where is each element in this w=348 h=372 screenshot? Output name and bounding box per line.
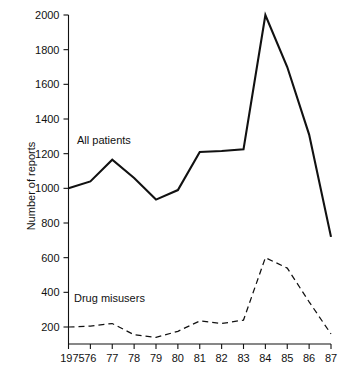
x-tick-label: 86 — [303, 352, 315, 364]
x-tick-label: 87 — [325, 352, 337, 364]
y-tick-label: 800 — [41, 217, 59, 229]
series-line-all-patients — [69, 15, 332, 237]
chart-plot-area: 200400600800100012001400160018002000 197… — [0, 0, 348, 372]
x-tick-label: 79 — [150, 352, 162, 364]
y-tick-label: 1600 — [35, 78, 59, 90]
x-tick-label: 78 — [128, 352, 140, 364]
x-tick-label: 77 — [106, 352, 118, 364]
x-axis: 1975767778798081828384858687 — [60, 344, 337, 364]
x-tick-label: 82 — [216, 352, 228, 364]
x-tick-label: 84 — [259, 352, 271, 364]
y-tick-label: 400 — [41, 286, 59, 298]
x-tick-label: 85 — [281, 352, 293, 364]
y-tick-label: 1200 — [35, 148, 59, 160]
y-tick-label: 200 — [41, 321, 59, 333]
x-tick-label: 80 — [172, 352, 184, 364]
x-tick-label: 76 — [84, 352, 96, 364]
series-line-drug-misusers — [69, 258, 332, 338]
y-tick-label: 1000 — [35, 182, 59, 194]
x-tick-label: 81 — [194, 352, 206, 364]
y-tick-label: 1400 — [35, 113, 59, 125]
x-tick-label: 83 — [237, 352, 249, 364]
y-tick-label: 1800 — [35, 44, 59, 56]
line-chart: 200400600800100012001400160018002000 197… — [0, 0, 348, 372]
y-tick-label: 2000 — [35, 9, 59, 21]
y-axis: 200400600800100012001400160018002000 — [35, 9, 68, 344]
y-tick-label: 600 — [41, 252, 59, 264]
x-tick-label: 1975 — [60, 352, 84, 364]
